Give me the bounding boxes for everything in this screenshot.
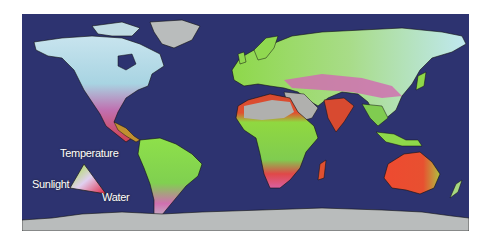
legend-triangle [70, 164, 106, 194]
legend-label-water: Water [102, 191, 129, 203]
new-zealand [450, 180, 462, 198]
arctic-islands [92, 22, 140, 36]
indonesia [376, 132, 422, 146]
legend-label-sunlight: Sunlight [32, 178, 69, 190]
south-america [138, 138, 202, 220]
antarctica [22, 208, 469, 231]
north-america [34, 36, 164, 142]
world-map-graphic [22, 14, 469, 231]
legend-label-temperature: Temperature [60, 147, 118, 159]
australia [384, 152, 440, 194]
madagascar [318, 160, 326, 180]
world-map: Temperature Sunlight Water [22, 14, 469, 231]
indian-subcontinent [324, 98, 354, 132]
greenland [150, 20, 200, 48]
